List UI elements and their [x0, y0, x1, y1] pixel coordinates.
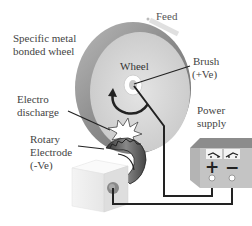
- electro-label-line2: discharge: [17, 106, 59, 118]
- rotary-label-line2: Electrode: [30, 146, 72, 158]
- rotary-label-line3: (-Ve): [30, 159, 53, 171]
- plus-sign: +: [205, 159, 219, 176]
- power-label-line2: supply: [197, 117, 226, 129]
- rotary-label-line1: Rotary: [30, 133, 60, 145]
- feed-label: Feed: [156, 10, 177, 22]
- brush-label-line2: (+Ve): [192, 68, 217, 80]
- specific-wheel-label-line1: Specific metal: [13, 32, 76, 44]
- wheel-label: Wheel: [120, 60, 149, 72]
- power-label-line1: Power: [197, 104, 225, 116]
- rotary-leader-line: [78, 146, 104, 149]
- specific-wheel-label-line2: bonded wheel: [13, 45, 74, 57]
- power-supply-box: [190, 138, 252, 188]
- minus-sign: −: [225, 159, 239, 176]
- brush-label-line1: Brush: [193, 55, 219, 67]
- electro-label-line1: Electro: [17, 93, 49, 105]
